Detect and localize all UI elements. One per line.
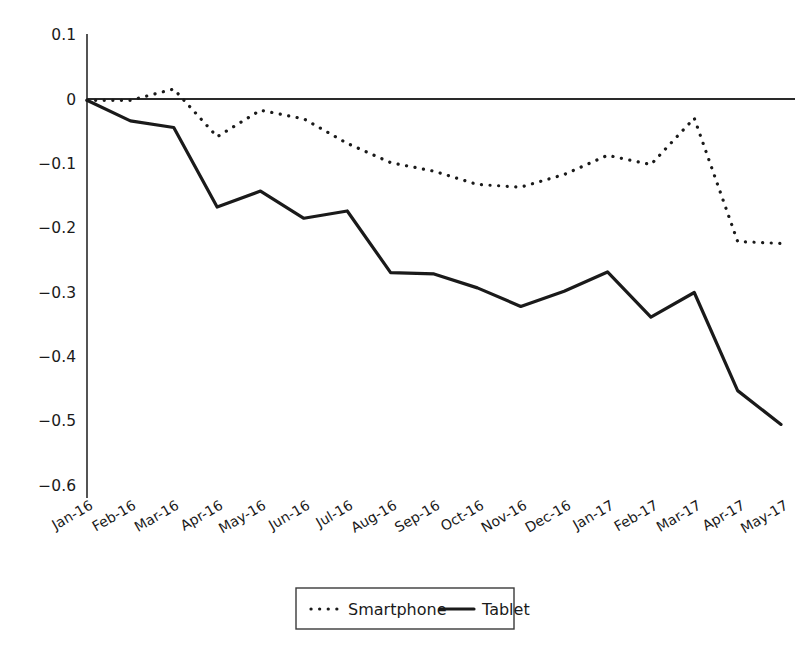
x-tick-label: Nov-16 xyxy=(478,497,529,536)
line-chart: 0.1 0 −0.1 −0.2 −0.3 −0.4 −0.5 −0.6 Jan-… xyxy=(0,0,805,649)
x-tick-label: Jan-16 xyxy=(48,497,95,534)
y-tick-label: 0.1 xyxy=(51,26,76,44)
x-tick-label: May-16 xyxy=(216,497,269,537)
x-tick-label: Feb-16 xyxy=(89,497,138,535)
x-tick-label: Mar-16 xyxy=(132,497,182,535)
series-line-tablet xyxy=(87,100,781,424)
x-tick-label: Jun-16 xyxy=(265,497,313,534)
legend-label-smartphone: Smartphone xyxy=(348,600,446,619)
x-axis: Jan-16 Feb-16 Mar-16 Apr-16 May-16 Jun-1… xyxy=(48,497,790,537)
y-tick-label: −0.2 xyxy=(38,219,76,237)
x-tick-label: May-17 xyxy=(738,497,791,537)
plot-area xyxy=(87,89,781,424)
y-tick-label: −0.6 xyxy=(38,477,76,495)
x-tick-label: Sep-16 xyxy=(392,497,443,536)
x-tick-label: Aug-16 xyxy=(348,497,400,536)
y-tick-label: −0.5 xyxy=(38,412,76,430)
x-tick-label: Jan-17 xyxy=(569,497,616,534)
y-tick-label: −0.1 xyxy=(38,155,76,173)
x-tick-label: Mar-17 xyxy=(654,497,704,535)
chart-container: 0.1 0 −0.1 −0.2 −0.3 −0.4 −0.5 −0.6 Jan-… xyxy=(0,0,805,649)
y-tick-label: −0.3 xyxy=(38,284,76,302)
x-tick-label: Jul-16 xyxy=(312,497,355,531)
y-tick-label: 0 xyxy=(66,91,76,109)
x-tick-label: Dec-16 xyxy=(522,497,573,536)
x-tick-label: Feb-17 xyxy=(611,497,660,535)
y-tick-label: −0.4 xyxy=(38,348,76,366)
series-line-smartphone xyxy=(87,89,781,243)
chart-legend: Smartphone Tablet xyxy=(296,588,530,629)
y-axis: 0.1 0 −0.1 −0.2 −0.3 −0.4 −0.5 −0.6 xyxy=(38,26,87,498)
legend-label-tablet: Tablet xyxy=(481,600,530,619)
x-tick-label: Oct-16 xyxy=(438,497,487,534)
